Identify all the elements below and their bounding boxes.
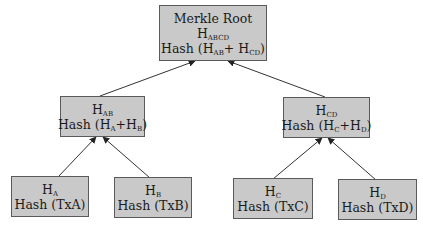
node-hash-name: HD — [369, 185, 386, 200]
node-hash-name: HA — [42, 182, 58, 197]
node-hash-name: HB — [145, 183, 161, 198]
edge-hcd-to-root — [228, 61, 325, 97]
node-hcd: HCD Hash (HC+HD) — [283, 97, 370, 138]
node-hash-name: HCD — [316, 103, 338, 118]
node-label: Hash (TxB) — [117, 198, 188, 213]
node-label: Hash (TxA) — [15, 197, 86, 212]
node-title: Merkle Root — [174, 11, 253, 26]
node-hc: HC Hash (TxC) — [233, 178, 313, 219]
node-hash-name: HAB — [92, 102, 113, 117]
edge-ha-to-hab — [58, 137, 96, 177]
node-hb: HB Hash (TxB) — [114, 177, 192, 218]
node-hab: HAB Hash (HA+HB) — [60, 96, 145, 137]
node-hash-name: HC — [265, 184, 281, 199]
node-hd: HD Hash (TxD) — [338, 179, 417, 220]
node-ha: HA Hash (TxA) — [11, 176, 89, 217]
edge-hc-to-hcd — [273, 138, 322, 179]
edge-hb-to-hab — [103, 137, 150, 178]
edge-hd-to-hcd — [328, 138, 376, 180]
node-hash-name: HABCD — [197, 26, 229, 41]
node-formula: Hash (HA+HB) — [58, 117, 147, 132]
node-formula: Hash (HC+HD) — [282, 118, 372, 133]
node-formula: Hash (HAB+ HCD) — [161, 41, 265, 56]
node-label: Hash (TxD) — [342, 200, 414, 215]
edge-hab-to-root — [100, 61, 195, 96]
node-merkle-root: Merkle Root HABCD Hash (HAB+ HCD) — [159, 5, 267, 61]
node-label: Hash (TxC) — [237, 199, 309, 214]
